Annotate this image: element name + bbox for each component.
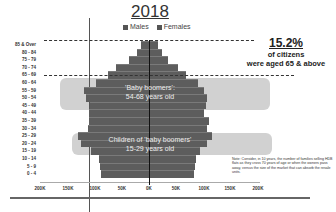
- age-group-label: 60 - 64: [2, 80, 36, 85]
- male-bar: [116, 64, 149, 72]
- male-bar: [141, 41, 149, 49]
- female-bar: [149, 155, 196, 163]
- boomers-annotation: 'Baby boomers': 54-68 years old: [100, 83, 200, 101]
- top-dashed-line: [44, 40, 254, 41]
- x-tick-label: 100K: [199, 186, 210, 191]
- age65-dashed-line: [44, 75, 294, 76]
- x-tick-label: 200K: [253, 186, 264, 191]
- age-group-label: 65 - 69: [2, 72, 36, 77]
- female-bar: [149, 163, 195, 171]
- age-group-label: 80 - 84: [2, 50, 36, 55]
- age-group-label: 45 - 49: [2, 103, 36, 108]
- age-group-label: 25 - 29: [2, 133, 36, 138]
- male-bar: [99, 155, 149, 163]
- female-bar: [149, 64, 178, 72]
- age-group-label: 40 - 44: [2, 110, 36, 115]
- population-pyramid: 85 & Over80 - 8475 - 7970 - 7465 - 6960 …: [0, 0, 336, 212]
- center-axis-line: [149, 40, 150, 185]
- elderly-stat: 15.2% of citizens were aged 65 & above: [236, 36, 336, 68]
- age-group-label: 15 - 19: [2, 148, 36, 153]
- female-bar: [149, 102, 206, 110]
- female-bar: [149, 49, 162, 57]
- age-group-label: 10 - 14: [2, 156, 36, 161]
- age-group-label: 20 - 24: [2, 141, 36, 146]
- age-group-label: 85 & Over: [2, 42, 36, 47]
- age-group-label: 35 - 39: [2, 118, 36, 123]
- age-group-label: 70 - 74: [2, 65, 36, 70]
- x-tick-label: 50K: [118, 186, 126, 191]
- x-tick-label: 150K: [225, 186, 236, 191]
- x-tick-label: 150K: [63, 186, 74, 191]
- female-bar: [149, 125, 207, 133]
- age-group-label: 55 - 59: [2, 88, 36, 93]
- female-bar: [149, 117, 209, 125]
- male-bar: [129, 56, 149, 64]
- x-tick-label: 0K: [146, 186, 152, 191]
- note-text: Note: Consider, in 10 years, the number …: [232, 157, 336, 174]
- male-bar: [90, 102, 149, 110]
- age-group-label: 5 - 9: [2, 164, 36, 169]
- male-bar: [137, 49, 149, 57]
- female-bar: [149, 41, 158, 49]
- children-annotation: Children of 'baby boomers' 15-29 years o…: [90, 135, 210, 153]
- x-tick-label: 200K: [35, 186, 46, 191]
- male-bar: [89, 117, 149, 125]
- age-group-label: 75 - 79: [2, 57, 36, 62]
- female-bar: [149, 56, 168, 64]
- age-group-label: 50 - 54: [2, 95, 36, 100]
- x-tick-label: 100K: [90, 186, 101, 191]
- age-group-label: 0 - 4: [2, 171, 36, 176]
- x-tick-label: 50K: [172, 186, 180, 191]
- female-bar: [149, 109, 204, 117]
- male-bar: [100, 163, 149, 171]
- male-bar: [101, 170, 149, 178]
- bottom-rule: [10, 197, 310, 199]
- age-group-label: 30 - 34: [2, 126, 36, 131]
- male-bar: [89, 109, 149, 117]
- female-bar: [149, 170, 194, 178]
- male-bar: [88, 125, 149, 133]
- x-axis: [40, 182, 260, 183]
